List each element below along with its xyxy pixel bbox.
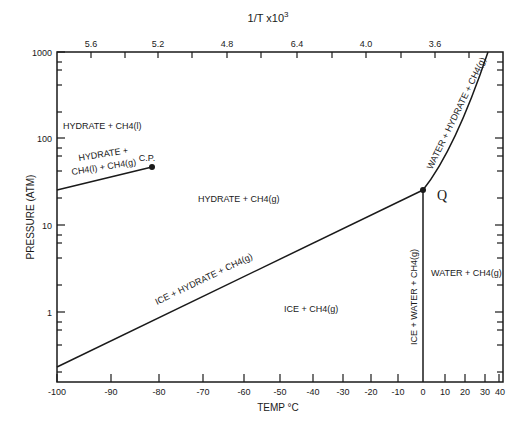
svg-text:20: 20 <box>460 387 470 397</box>
svg-text:-100: -100 <box>48 387 66 397</box>
svg-text:-90: -90 <box>104 387 117 397</box>
svg-text:1: 1 <box>47 308 52 318</box>
svg-text:30: 30 <box>480 387 490 397</box>
svg-text:-20: -20 <box>364 387 377 397</box>
x-ticks <box>57 374 499 382</box>
critical-point <box>149 164 155 170</box>
q-label: Q <box>437 188 447 203</box>
x-tick-labels: -100 -90 -80 -70 -60 -50 -40 -30 -20 -10… <box>48 387 505 397</box>
svg-text:-70: -70 <box>196 387 209 397</box>
svg-text:100: 100 <box>37 134 52 144</box>
x2-tick-labels: 5.6 5.2 4.8 6.4 4.0 3.6 <box>85 39 442 49</box>
svg-text:5.2: 5.2 <box>152 39 165 49</box>
plot-frame <box>57 52 503 382</box>
phase-diagram-chart: 1/T x103 5.6 5.2 4.8 6.4 4.0 3.6 <box>0 0 530 431</box>
x2-ticks <box>91 52 469 58</box>
svg-text:0: 0 <box>420 387 425 397</box>
svg-text:-10: -10 <box>391 387 404 397</box>
svg-text:-40: -40 <box>306 387 319 397</box>
svg-text:6.4: 6.4 <box>291 39 304 49</box>
y-axis-title: PRESSURE (ATM) <box>25 175 36 260</box>
svg-text:5.6: 5.6 <box>85 39 98 49</box>
y-ticks <box>57 52 65 372</box>
x-axis-title: TEMP °C <box>257 402 299 413</box>
svg-text:ICE + WATER + CH4(g): ICE + WATER + CH4(g) <box>409 249 419 345</box>
svg-text:10: 10 <box>42 221 52 231</box>
y-ticks-right <box>495 62 503 372</box>
phase-curves <box>57 52 488 382</box>
svg-text:-80: -80 <box>152 387 165 397</box>
svg-text:HYDRATE + CH4(g): HYDRATE + CH4(g) <box>198 194 280 204</box>
svg-text:3.6: 3.6 <box>429 39 442 49</box>
x2-axis-title: 1/T x103 <box>248 10 290 24</box>
svg-text:ICE + CH4(g): ICE + CH4(g) <box>284 304 338 314</box>
svg-text:4.8: 4.8 <box>221 39 234 49</box>
svg-text:1000: 1000 <box>32 48 52 58</box>
svg-text:HYDRATE + CH4(l): HYDRATE + CH4(l) <box>63 121 142 131</box>
svg-text:-50: -50 <box>273 387 286 397</box>
curve-ice-hydrate <box>57 190 423 367</box>
quadruple-point <box>420 187 426 193</box>
svg-text:10: 10 <box>440 387 450 397</box>
svg-text:WATER + CH4(g): WATER + CH4(g) <box>431 268 502 278</box>
svg-text:WATER + HYDRATE + CH4(g): WATER + HYDRATE + CH4(g) <box>425 56 488 171</box>
svg-text:-30: -30 <box>336 387 349 397</box>
svg-text:-60: -60 <box>237 387 250 397</box>
cp-label: C.P. <box>139 153 155 163</box>
svg-text:4.0: 4.0 <box>360 39 373 49</box>
svg-text:40: 40 <box>495 387 505 397</box>
